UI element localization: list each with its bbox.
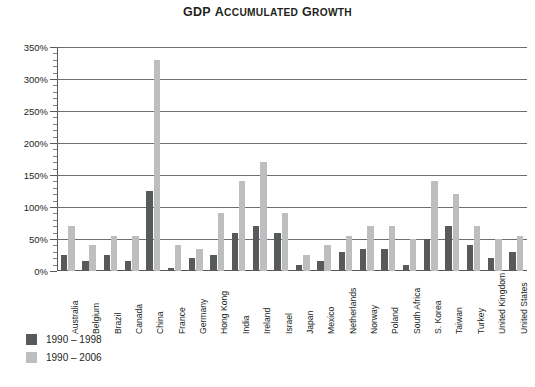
- x-axis-tick-label: United States: [520, 282, 529, 334]
- title-word-accumulated-cap: A: [215, 5, 224, 19]
- legend-swatch-icon: [26, 352, 37, 363]
- bars-layer: [57, 47, 527, 271]
- x-axis-tick-label: Hong Kong: [220, 291, 229, 334]
- x-axis-tick-label: Taiwan: [455, 307, 464, 334]
- y-axis-tick-label: 0%: [34, 266, 48, 277]
- bar-group: [168, 47, 182, 271]
- y-axis-major-tick: [50, 79, 57, 80]
- bar-group: [467, 47, 481, 271]
- x-axis-tick-label: France: [178, 307, 187, 334]
- bar: [403, 265, 409, 271]
- x-axis-tick-label: Canada: [135, 304, 144, 334]
- bar: [239, 181, 245, 271]
- bar-group: [317, 47, 331, 271]
- bar: [104, 255, 110, 271]
- bar: [495, 239, 501, 271]
- bar: [61, 255, 67, 271]
- legend-item[interactable]: 1990 – 2006: [26, 352, 102, 363]
- x-axis-tick-label: Brazil: [114, 313, 123, 335]
- bar-group: [403, 47, 417, 271]
- bar: [260, 162, 266, 271]
- legend-item-label: 1990 – 1998: [46, 334, 102, 345]
- y-axis-major-tick: [50, 111, 57, 112]
- bar-group: [360, 47, 374, 271]
- x-axis-tick-label: India: [242, 315, 251, 334]
- chart-legend: 1990 – 19981990 – 2006: [26, 334, 102, 370]
- bar: [509, 252, 515, 271]
- bar: [389, 226, 395, 271]
- bar: [125, 261, 131, 271]
- bar-group: [274, 47, 288, 271]
- x-axis-tick-label: Australia: [71, 301, 80, 334]
- x-axis-tick-label: Ireland: [263, 308, 272, 334]
- bar: [132, 236, 138, 271]
- y-axis-major-tick: [50, 239, 57, 240]
- x-axis-tick-label: Japan: [306, 311, 315, 334]
- bar: [517, 236, 523, 271]
- title-word-gdp: GDP: [183, 5, 211, 19]
- bar-group: [296, 47, 310, 271]
- bar: [381, 249, 387, 271]
- y-axis-major-tick: [50, 143, 57, 144]
- bar: [218, 213, 224, 271]
- bar: [410, 239, 416, 271]
- x-axis-tick-label: Norway: [370, 305, 379, 334]
- x-axis-labels: AustraliaBelgiumBrazilCanadaChinaFranceG…: [57, 274, 527, 336]
- bar: [360, 249, 366, 271]
- bar: [303, 255, 309, 271]
- bar-group: [82, 47, 96, 271]
- bar: [175, 245, 181, 271]
- bar-group: [232, 47, 246, 271]
- bar: [196, 249, 202, 271]
- y-axis-tick-label: 350%: [24, 42, 48, 53]
- x-axis-tick-label: Mexico: [327, 307, 336, 334]
- bar: [445, 226, 451, 271]
- x-axis-tick-label: Belgium: [92, 303, 101, 334]
- title-word-growth-cap: G: [302, 5, 312, 19]
- legend-item[interactable]: 1990 – 1998: [26, 334, 102, 345]
- x-axis-tick-label: Germany: [199, 299, 208, 334]
- legend-item-label: 1990 – 2006: [46, 352, 102, 363]
- bar: [453, 194, 459, 271]
- bar: [339, 252, 345, 271]
- bar: [346, 236, 352, 271]
- bar: [189, 258, 195, 271]
- bar-group: [125, 47, 139, 271]
- bar: [431, 181, 437, 271]
- bar: [82, 261, 88, 271]
- bar-group: [210, 47, 224, 271]
- y-axis-major-tick: [50, 207, 57, 208]
- y-axis-tick-label: 50%: [29, 234, 48, 245]
- bar: [146, 191, 152, 271]
- bar: [111, 236, 117, 271]
- bar: [168, 268, 174, 271]
- bar-group: [253, 47, 267, 271]
- plot-area: 0%50%100%150%200%250%300%350%: [57, 47, 527, 271]
- y-axis-tick-label: 300%: [24, 74, 48, 85]
- x-axis-tick-label: Poland: [391, 307, 400, 334]
- bar: [367, 226, 373, 271]
- gdp-accumulated-growth-chart: GDP ACCUMULATED GROWTH 0%50%100%150%200%…: [0, 0, 535, 387]
- bar-group: [488, 47, 502, 271]
- bar: [68, 226, 74, 271]
- bar-group: [381, 47, 395, 271]
- y-axis-major-tick: [50, 175, 57, 176]
- legend-swatch-icon: [26, 334, 37, 345]
- y-axis-tick-label: 250%: [24, 106, 48, 117]
- bar: [467, 245, 473, 271]
- y-axis-tick-label: 150%: [24, 170, 48, 181]
- y-axis-major-tick: [50, 47, 57, 48]
- bar-group: [424, 47, 438, 271]
- bar-group: [445, 47, 459, 271]
- bar: [296, 265, 302, 271]
- bar: [154, 60, 160, 271]
- title-word-growth-rest: ROWTH: [312, 7, 352, 18]
- x-axis-tick-label: Turkey: [477, 308, 486, 334]
- bar: [424, 239, 430, 271]
- bar: [317, 261, 323, 271]
- x-axis-tick-label: United Kingdom: [498, 273, 507, 334]
- bar: [210, 255, 216, 271]
- bar-group: [509, 47, 523, 271]
- y-axis-tick-label: 200%: [24, 138, 48, 149]
- y-axis-major-tick: [50, 271, 57, 272]
